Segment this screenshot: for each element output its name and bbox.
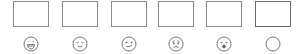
rating-option-none <box>255 0 291 54</box>
slight-smile-face-icon[interactable] <box>121 36 137 52</box>
option-label-box[interactable] <box>13 1 49 27</box>
rating-option-smirk <box>111 0 147 54</box>
rating-option-content <box>62 0 98 54</box>
rating-option-sad <box>158 0 194 54</box>
sad-face-icon[interactable] <box>168 36 184 52</box>
laughing-face-icon[interactable] <box>23 36 39 52</box>
shocked-face-icon[interactable] <box>216 36 232 52</box>
rating-option-laughing <box>13 0 49 54</box>
option-label-box[interactable] <box>111 1 147 27</box>
option-label-box[interactable] <box>62 1 98 27</box>
option-label-box[interactable] <box>206 1 242 27</box>
option-label-box[interactable] <box>255 1 291 27</box>
content-face-icon[interactable] <box>72 36 88 52</box>
option-label-box[interactable] <box>158 1 194 27</box>
rating-option-shocked <box>206 0 242 54</box>
empty-circle-icon[interactable] <box>265 36 281 52</box>
